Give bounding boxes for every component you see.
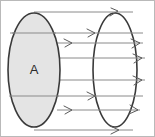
area-label: A bbox=[30, 62, 39, 77]
flux-diagram-canvas: A bbox=[0, 0, 155, 137]
flux-diagram-container: A bbox=[0, 0, 155, 137]
arrow-head-group bbox=[64, 8, 142, 134]
